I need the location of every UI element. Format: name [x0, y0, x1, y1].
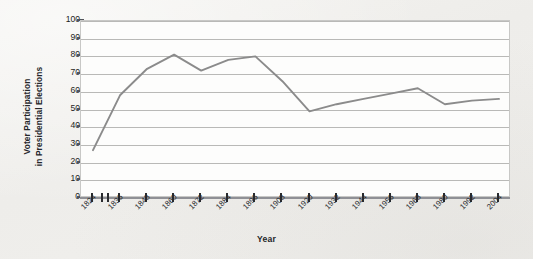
plot-area: [80, 20, 510, 197]
data-series-line: [81, 21, 511, 198]
chart-page: Voter Participation in Presidential Elec…: [0, 0, 533, 259]
y-axis-title-line2: in Presidential Elections: [33, 22, 45, 212]
series-polyline: [93, 55, 499, 151]
x-minor-tick-mark: [101, 193, 103, 202]
y-axis-title: Voter Participation in Presidential Elec…: [22, 22, 45, 212]
voter-participation-line-chart: Voter Participation in Presidential Elec…: [0, 0, 533, 259]
y-axis-ticks: 1009080706050403020100: [46, 0, 80, 259]
x-axis-title: Year: [0, 234, 533, 244]
x-minor-tick-mark: [107, 193, 109, 202]
y-axis-title-line1: Voter Participation: [22, 79, 32, 155]
